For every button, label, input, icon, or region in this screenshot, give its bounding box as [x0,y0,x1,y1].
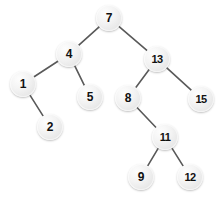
tree-node-label: 1 [20,78,26,90]
tree-edge [165,66,193,91]
tree-node-label: 15 [195,94,206,105]
tree-edge [136,106,158,129]
tree-node-11[interactable]: 11 [152,124,178,150]
tree-node-9[interactable]: 9 [128,164,154,190]
tree-node-5[interactable]: 5 [77,84,103,110]
tree-node-label: 2 [47,121,53,133]
binary-tree-diagram: 741315815211912 [0,0,222,202]
tree-node-1[interactable]: 1 [10,71,36,97]
tree-node-13[interactable]: 13 [144,46,170,72]
tree-node-12[interactable]: 12 [177,164,203,190]
tree-node-label: 4 [66,48,72,60]
tree-node-15[interactable]: 15 [188,86,214,112]
tree-edge [117,25,148,52]
tree-edge [147,146,160,167]
tree-node-label: 7 [106,12,112,24]
tree-node-8[interactable]: 8 [115,85,141,111]
tree-node-7[interactable]: 7 [96,5,122,31]
tree-node-4[interactable]: 4 [56,41,82,67]
tree-node-label: 13 [151,54,162,65]
tree-edge [135,68,151,89]
tree-node-label: 9 [138,171,144,183]
tree-edge [74,64,85,87]
tree-node-label: 8 [125,92,131,104]
tree-node-2[interactable]: 2 [37,114,63,140]
tree-node-label: 11 [160,132,170,143]
tree-edge [77,25,101,46]
tree-edge [29,93,44,117]
tree-node-label: 12 [184,172,195,183]
tree-edge [32,60,60,78]
tree-node-label: 5 [87,91,93,103]
tree-edge [171,146,184,167]
